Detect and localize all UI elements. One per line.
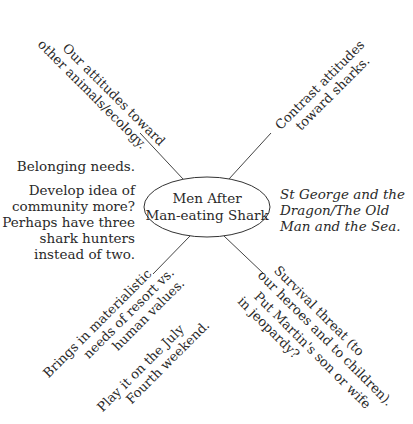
left-notes: Belonging needs. Develop idea of communi…: [2, 158, 135, 262]
right-note: St George and the Dragon/The Old Man and…: [280, 186, 405, 234]
left-note-community-line-2: community more?: [2, 198, 135, 214]
connector-lower-right: [224, 236, 264, 274]
left-note-community-line-5: instead of two.: [2, 246, 135, 262]
right-note-line-3: Man and the Sea.: [280, 218, 405, 234]
connector-upper-right: [229, 133, 271, 179]
center-line-2: Man-eating Shark: [144, 207, 270, 224]
center-line-1: Men After: [144, 190, 270, 207]
center-node: Men After Man-eating Shark: [144, 190, 270, 224]
right-note-line-2: Dragon/The Old: [280, 202, 405, 218]
right-note-line-1: St George and the: [280, 186, 405, 202]
left-note-belonging: Belonging needs.: [2, 158, 135, 174]
left-note-community-line-1: Develop idea of: [2, 182, 135, 198]
left-note-community-line-4: shark hunters: [2, 230, 135, 246]
left-note-community-line-3: Perhaps have three: [2, 214, 135, 230]
